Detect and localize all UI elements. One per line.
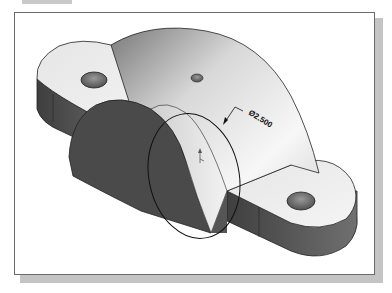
header-tab xyxy=(22,0,72,4)
top-hole xyxy=(191,74,203,82)
left-mount-hole xyxy=(81,72,107,88)
cad-model-drawing: Ø2.500 xyxy=(15,13,376,276)
figure-frame: Ø2.500 xyxy=(14,12,375,275)
right-mount-hole xyxy=(287,192,315,210)
